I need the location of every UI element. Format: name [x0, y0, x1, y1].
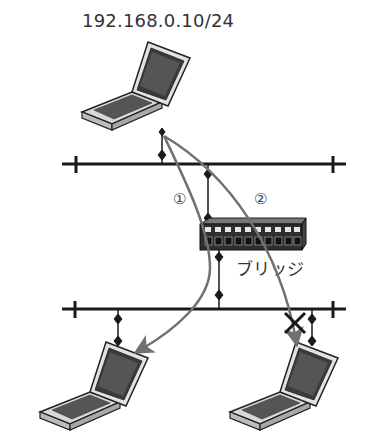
left-dest-link	[114, 309, 122, 346]
bridge-device-icon	[200, 218, 306, 250]
right-dest-link	[308, 309, 316, 346]
network-diagram	[0, 0, 392, 436]
source-laptop-icon	[82, 42, 190, 130]
source-link	[158, 128, 166, 164]
dest-laptop-right-icon	[230, 342, 338, 430]
bridge-lower-link	[215, 250, 223, 309]
dest-laptop-left-icon	[40, 342, 148, 430]
